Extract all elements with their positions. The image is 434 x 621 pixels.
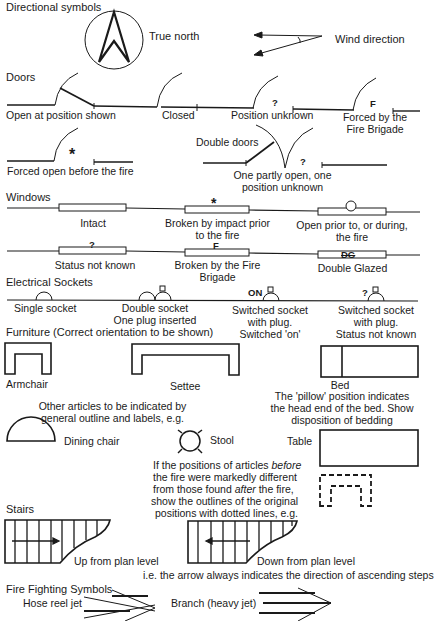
heading-stairs: Stairs <box>6 504 34 515</box>
north-arrow-icon <box>85 11 143 69</box>
label-table: Table <box>287 436 312 447</box>
text: If the positions of articles <box>153 459 271 471</box>
label-dining-chair: Dining chair <box>64 436 119 447</box>
mark-window-brigade: F <box>213 240 219 251</box>
label-stool: Stool <box>210 435 234 446</box>
mark-door-forced: F <box>370 98 376 109</box>
label-window-intact: Intact <box>60 218 126 229</box>
label-bed-note-1: The 'pillow' position indicates <box>262 391 422 402</box>
label-other-1: Other articles to be indicated by <box>30 401 195 412</box>
label-door-forced-open: Forced open before the fire <box>7 166 134 177</box>
heading-furniture: Furniture (Correct orientation to be sho… <box>6 327 213 338</box>
label-door-unknown: Position unknown <box>231 110 313 121</box>
label-wind-direction: Wind direction <box>335 34 405 45</box>
settee-icon <box>132 344 239 375</box>
door-closed-icon <box>157 73 254 111</box>
label-bed-note-3: disposition of bedding <box>262 415 422 426</box>
label-double-doors: Double doors <box>196 137 258 148</box>
label-armchair: Armchair <box>6 379 48 390</box>
heading-directional: Directional symbols <box>6 2 101 13</box>
mark-window-unknown: ? <box>89 239 95 250</box>
armchair-icon <box>5 343 51 374</box>
label-door-open: Open at position shown <box>6 110 116 121</box>
label-true-north: True north <box>149 31 199 42</box>
heading-doors: Doors <box>6 72 35 83</box>
window-intact-icon <box>7 204 185 211</box>
dotted-outline-icon <box>320 475 371 506</box>
mark-window-impact: * <box>211 198 216 209</box>
socket-line <box>7 300 418 301</box>
label-settee: Settee <box>170 381 200 392</box>
label-door-forced-1: Forced by the <box>340 112 410 123</box>
label-other-2: general outline and labels, e.g. <box>30 413 195 424</box>
label-moved-1: If the positions of articles before <box>153 460 301 471</box>
label-window-open-2: the fire <box>288 232 416 243</box>
label-window-brigade-2: Brigade <box>165 272 270 283</box>
window-open-icon <box>318 201 420 215</box>
window-broken-brigade-icon <box>185 249 318 256</box>
label-door-closed: Closed <box>162 110 195 121</box>
label-double-doors-2: position unknown <box>220 182 345 193</box>
switched-socket-unknown-icon <box>368 287 384 301</box>
label-window-impact-1: Broken by impact prior <box>160 218 275 229</box>
label-switched-unknown-2: with plug. <box>330 317 422 328</box>
text: from those found <box>153 483 235 495</box>
text: the fire, <box>256 483 294 495</box>
label-switched-on-1: Switched socket <box>225 305 315 316</box>
label-door-forced-2: Fire Brigade <box>340 124 410 135</box>
label-moved-5: positions with dotted lines, e.g. <box>155 508 298 519</box>
emphasis: before <box>271 459 301 471</box>
wind-arrow-icon <box>254 32 322 56</box>
label-double-socket-2: One plug inserted <box>105 315 205 326</box>
mark-double-doors: ? <box>300 156 306 167</box>
label-window-unknown: Status not known <box>40 260 150 271</box>
mark-socket-unknown: ? <box>362 287 368 298</box>
window-unknown-icon <box>7 247 185 254</box>
label-switched-on-2: with plug. <box>225 317 315 328</box>
stool-icon <box>178 430 202 453</box>
label-hose-reel: Hose reel jet <box>23 598 82 609</box>
heading-sockets: Electrical Sockets <box>6 277 93 288</box>
label-stairs-up: Up from plan level <box>74 556 159 567</box>
window-double-glazed-icon <box>318 251 420 258</box>
emphasis: after <box>235 483 256 495</box>
label-branch: Branch (heavy jet) <box>171 598 256 609</box>
mark-door-unknown: ? <box>272 97 278 108</box>
mark-window-double: DG <box>341 249 355 260</box>
label-double-doors-1: One partly open, one <box>220 170 345 181</box>
bed-icon <box>321 346 418 377</box>
label-window-open-1: Open prior to, or during, <box>288 220 416 231</box>
window-broken-impact-icon <box>185 206 318 213</box>
label-stairs-down: Down from plan level <box>257 556 355 567</box>
branch-jet-icon <box>259 588 331 621</box>
label-switched-on-3: Switched 'on' <box>225 329 315 340</box>
single-socket-icon <box>36 292 52 300</box>
switched-socket-on-icon <box>263 287 279 301</box>
door-forced-brigade-icon <box>353 78 420 114</box>
label-window-double: Double Glazed <box>310 263 395 274</box>
heading-fire-fighting: Fire Fighting Symbols <box>6 584 112 595</box>
table-icon <box>320 430 418 466</box>
label-moved-3: from those found after the fire, <box>153 484 294 495</box>
label-moved-2: the fire were markedly different <box>153 472 297 483</box>
double-socket-icon <box>139 286 171 300</box>
label-double-socket-1: Double socket <box>105 303 205 314</box>
door-unknown-icon <box>253 76 354 113</box>
label-window-brigade-1: Broken by the Fire <box>165 260 270 271</box>
label-switched-unknown-1: Switched socket <box>330 305 422 316</box>
mark-socket-on: ON <box>248 287 262 298</box>
label-switched-unknown-3: Status not known <box>330 329 422 340</box>
label-stairs-note: i.e. the arrow always indicates the dire… <box>143 570 434 581</box>
label-moved-4: show the outlines of the original <box>151 496 298 507</box>
label-bed-note-2: the head end of the bed. Show <box>262 403 422 414</box>
mark-door-forced-open: * <box>69 149 75 160</box>
heading-windows: Windows <box>6 192 51 203</box>
label-single-socket: Single socket <box>14 303 76 314</box>
